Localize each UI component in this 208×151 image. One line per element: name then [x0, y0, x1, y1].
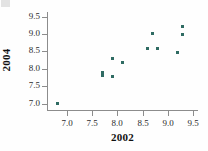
y-tick-label: 9.5 — [16, 12, 40, 22]
data-point — [146, 47, 149, 50]
corner-artifact — [1, 0, 10, 7]
y-tick-label: 7.5 — [16, 81, 40, 91]
y-tick-label-text: 7.5 — [18, 81, 40, 90]
y-tick-mark — [42, 86, 47, 87]
x-tick-mark — [143, 111, 144, 116]
data-point — [176, 51, 179, 54]
y-tick-mark — [42, 69, 47, 70]
data-point — [111, 57, 114, 60]
y-tick-label: 7.0 — [16, 99, 40, 109]
x-tick-label: 8.5 — [130, 118, 156, 128]
data-point — [101, 74, 104, 77]
x-tick-mark — [92, 111, 93, 116]
y-axis-title: 2004 — [0, 35, 12, 85]
data-point — [181, 33, 184, 36]
y-tick-label-text: 9.5 — [18, 12, 40, 21]
y-tick-mark — [42, 51, 47, 52]
y-tick-label: 8.5 — [16, 46, 40, 56]
x-axis-title: 2002 — [47, 131, 198, 143]
x-tick-label: 7.0 — [54, 118, 80, 128]
y-tick-label-text: 8.5 — [18, 46, 40, 55]
x-tick-label: 9.0 — [155, 118, 181, 128]
x-tick-mark — [67, 111, 68, 116]
data-point — [181, 25, 184, 28]
y-tick-label: 8.0 — [16, 64, 40, 74]
y-tick-label-text: 7.0 — [18, 99, 40, 108]
scatter-plot-figure: 7.07.58.08.59.09.5 7.07.58.08.59.09.5 20… — [0, 0, 208, 151]
y-tick-label-text: 8.0 — [18, 64, 40, 73]
x-axis-line — [47, 110, 198, 111]
y-tick-mark — [42, 17, 47, 18]
y-tick-mark — [42, 34, 47, 35]
data-point — [121, 61, 124, 64]
y-tick-label-text: 9.0 — [18, 29, 40, 38]
y-tick-mark — [42, 104, 47, 105]
data-point — [151, 32, 154, 35]
x-tick-mark — [168, 111, 169, 116]
data-point — [56, 102, 59, 105]
y-axis-line — [47, 12, 48, 111]
x-tick-label: 7.5 — [79, 118, 105, 128]
x-tick-mark — [193, 111, 194, 116]
x-tick-label: 9.5 — [180, 118, 206, 128]
y-tick-label: 9.0 — [16, 29, 40, 39]
data-point — [156, 47, 159, 50]
data-point — [111, 75, 114, 78]
x-tick-label: 8.0 — [104, 118, 130, 128]
x-tick-mark — [117, 111, 118, 116]
